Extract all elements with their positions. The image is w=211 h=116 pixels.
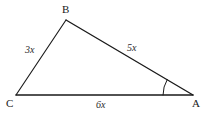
angle-arc-a: [163, 80, 167, 95]
side-cb-line: [16, 20, 66, 95]
side-ba-line: [66, 20, 193, 95]
side-label-ba: 5x: [127, 43, 136, 53]
triangle-diagram: [0, 0, 211, 116]
side-label-ca: 6x: [96, 100, 105, 110]
geometry-figure: B C A 3x 5x 6x: [0, 0, 211, 116]
triangle-outline: [16, 20, 193, 95]
vertex-label-c: C: [6, 98, 13, 109]
vertex-label-b: B: [62, 4, 69, 15]
vertex-label-a: A: [192, 98, 200, 109]
side-label-cb: 3x: [25, 45, 34, 55]
